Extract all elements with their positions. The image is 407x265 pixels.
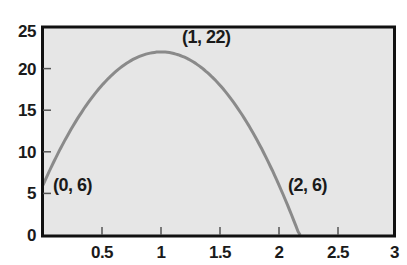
x-tick-label: 3: [390, 243, 399, 262]
y-tick-label: 5: [27, 184, 36, 203]
annotation-point-0-6: (0, 6): [53, 175, 93, 195]
x-tick-label: 2.5: [327, 243, 349, 262]
annotation-point-1-22: (1, 22): [182, 27, 231, 47]
x-tick-label: 2: [275, 243, 284, 262]
x-tick-label: 0.5: [91, 243, 113, 262]
y-tick-label: 15: [18, 101, 36, 120]
parabola-chart: 0.511.522.53 0510152025 (0, 6) (1, 22) (…: [0, 0, 407, 265]
y-tick-label: 25: [18, 22, 36, 41]
x-tick-label: 1.5: [209, 243, 231, 262]
y-tick-label: 10: [18, 143, 36, 162]
x-tick-label: 1: [157, 243, 166, 262]
y-tick-label: 20: [18, 60, 36, 79]
annotation-point-2-6: (2, 6): [288, 175, 328, 195]
plot-area: [43, 27, 394, 235]
y-tick-label: 0: [27, 226, 36, 245]
